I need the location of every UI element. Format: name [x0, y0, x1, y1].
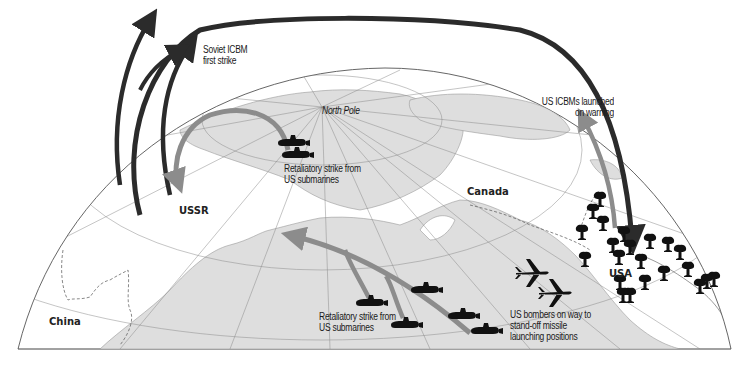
label-ussr: USSR: [179, 205, 209, 216]
label-canada: Canada: [467, 186, 509, 197]
label-north-pole: North Pole: [322, 105, 360, 116]
label-retaliatory-strike-north: Retaliatory strike from US submarines: [284, 163, 361, 185]
nuclear-exchange-map: Soviet ICBM first strike North Pole Reta…: [0, 0, 749, 370]
label-usa: USA: [609, 268, 632, 279]
label-us-bombers: US bombers on way to stand-off missile l…: [510, 309, 591, 342]
label-soviet-icbm-first-strike: Soviet ICBM first strike: [203, 44, 247, 66]
label-china: China: [49, 316, 81, 327]
label-us-icbms-launched: US ICBMs launched on warning: [542, 96, 614, 118]
label-retaliatory-strike-south: Retaliatory strike from US submarines: [319, 311, 396, 333]
